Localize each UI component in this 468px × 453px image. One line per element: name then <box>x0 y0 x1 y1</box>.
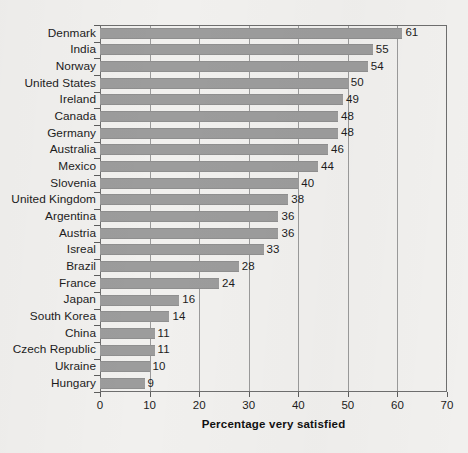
bar-row: 33 <box>100 242 447 259</box>
category-label: Argentina <box>0 209 96 224</box>
y-axis-tick <box>94 92 100 93</box>
y-axis-tick <box>94 209 100 210</box>
bar-row: 48 <box>100 108 447 125</box>
x-axis-tick <box>298 392 299 397</box>
x-axis-tick <box>199 392 200 397</box>
bar-value-label: 54 <box>371 59 384 74</box>
y-axis-tick <box>94 325 100 326</box>
bar-value-label: 28 <box>242 259 255 274</box>
bar-row: 9 <box>100 375 447 392</box>
bar <box>100 78 348 89</box>
x-axis-tick <box>397 392 398 397</box>
bar-row: 46 <box>100 142 447 159</box>
bar-row: 28 <box>100 259 447 276</box>
category-label: Austria <box>0 226 96 241</box>
bar-row: 50 <box>100 75 447 92</box>
x-axis-tick <box>100 392 101 397</box>
bar-value-label: 11 <box>158 326 170 341</box>
y-axis-tick <box>94 392 100 393</box>
y-axis-tick <box>94 158 100 159</box>
y-axis-tick <box>94 142 100 143</box>
category-label: Denmark <box>0 26 96 41</box>
y-axis-tick <box>94 375 100 376</box>
bar-value-label: 50 <box>351 75 364 90</box>
bar-row: 14 <box>100 309 447 326</box>
bar <box>100 44 373 55</box>
bar <box>100 28 402 39</box>
bar-row: 36 <box>100 225 447 242</box>
bar-value-label: 9 <box>148 376 155 391</box>
bar-value-label: 14 <box>172 309 185 324</box>
y-axis-tick <box>94 359 100 360</box>
category-label: Australia <box>0 142 96 157</box>
y-axis-tick <box>94 125 100 126</box>
bar-row: 36 <box>100 209 447 226</box>
category-label: Brazil <box>0 259 96 274</box>
chart-page: 6155545049484846444038363633282416141111… <box>0 0 468 453</box>
bar-row: 55 <box>100 42 447 59</box>
y-axis-tick <box>94 242 100 243</box>
bar-row: 40 <box>100 175 447 192</box>
bar-row: 48 <box>100 125 447 142</box>
bar-row: 10 <box>100 359 447 376</box>
bar-row: 16 <box>100 292 447 309</box>
bar <box>100 328 155 339</box>
category-label: India <box>0 42 96 57</box>
bar <box>100 345 155 356</box>
x-axis-tick-label: 10 <box>143 398 156 412</box>
y-axis-tick <box>94 75 100 76</box>
bar-value-label: 48 <box>341 109 354 124</box>
x-axis-title: Percentage very satisfied <box>100 418 447 430</box>
category-axis-labels: DenmarkIndiaNorwayUnited StatesIrelandCa… <box>0 25 96 392</box>
category-label: South Korea <box>0 309 96 324</box>
bar-value-label: 33 <box>267 242 280 257</box>
y-axis-tick <box>94 42 100 43</box>
x-axis-tick-label: 0 <box>97 398 103 412</box>
category-label: Czech Republic <box>0 342 96 357</box>
bar-row: 38 <box>100 192 447 209</box>
category-label: China <box>0 326 96 341</box>
bar-value-label: 46 <box>331 142 344 157</box>
y-axis-tick <box>94 342 100 343</box>
bars-layer: 6155545049484846444038363633282416141111… <box>100 25 447 392</box>
bar <box>100 61 368 72</box>
category-label: Hungary <box>0 376 96 391</box>
bar <box>100 111 338 122</box>
bar-row: 54 <box>100 58 447 75</box>
bar <box>100 178 298 189</box>
bar-row: 11 <box>100 342 447 359</box>
category-label: Ukraine <box>0 359 96 374</box>
y-axis-tick <box>94 275 100 276</box>
bar-row: 24 <box>100 275 447 292</box>
bar <box>100 94 343 105</box>
category-label: United Kingdom <box>0 192 96 207</box>
bar-value-label: 16 <box>182 292 195 307</box>
bar-value-label: 44 <box>321 159 334 174</box>
bar-value-label: 11 <box>158 342 170 357</box>
x-axis-tick <box>150 392 151 397</box>
x-axis-tick-label: 60 <box>391 398 404 412</box>
bar-value-label: 10 <box>153 359 166 374</box>
category-label: Japan <box>0 292 96 307</box>
bar <box>100 194 288 205</box>
bar <box>100 311 169 322</box>
bar-value-label: 24 <box>222 276 235 291</box>
bar-value-label: 36 <box>281 209 294 224</box>
y-axis-tick <box>94 309 100 310</box>
y-axis-tick <box>94 225 100 226</box>
bar-value-label: 48 <box>341 125 354 140</box>
bar <box>100 161 318 172</box>
bar-row: 11 <box>100 325 447 342</box>
bar <box>100 144 328 155</box>
bar-row: 49 <box>100 92 447 109</box>
y-axis-tick <box>94 175 100 176</box>
bar-value-label: 49 <box>346 92 359 107</box>
category-label: France <box>0 276 96 291</box>
bar <box>100 128 338 139</box>
bar-value-label: 40 <box>301 176 314 191</box>
bar-value-label: 36 <box>281 226 294 241</box>
category-label: Ireland <box>0 92 96 107</box>
x-axis-tick <box>249 392 250 397</box>
x-axis-tick-label: 40 <box>292 398 305 412</box>
x-axis-tick-label: 70 <box>441 398 454 412</box>
